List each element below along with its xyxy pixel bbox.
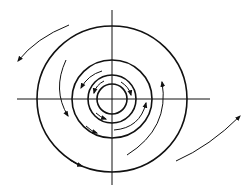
flow-arrows [18, 25, 240, 166]
arrow-outer-top-left [18, 25, 69, 61]
vortex-diagram [0, 0, 250, 195]
arrow-left-arc [59, 60, 68, 116]
arrow-right-arc [127, 82, 163, 155]
arrow-outer-bottom-right [176, 116, 240, 161]
arrow-outer-bottom [70, 160, 82, 166]
